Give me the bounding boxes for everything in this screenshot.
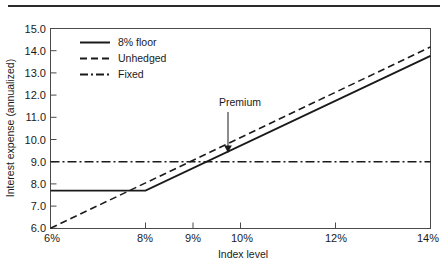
x-tick-label: 14% [417, 232, 439, 244]
x-axis-ticks [51, 223, 431, 229]
x-axis-title: Index level [218, 248, 268, 260]
y-tick-label: 11.0 [25, 111, 46, 123]
x-tick-label: 9% [185, 232, 201, 244]
annotation-label-premium: Premium [219, 96, 261, 108]
y-axis-title: Interest expense (annualized) [4, 59, 16, 197]
x-axis-tick-labels: 6% 8% 9% 10% 12% 14% [44, 232, 439, 244]
y-axis-ticks [51, 29, 57, 229]
y-tick-label: 13.0 [25, 67, 46, 79]
x-tick-label: 10% [231, 232, 253, 244]
x-tick-label: 6% [44, 232, 60, 244]
y-tick-label: 14.0 [25, 45, 46, 57]
figure-container: 15.0 14.0 13.0 12.0 11.0 10.0 9.0 8.0 7.… [0, 0, 448, 266]
line-chart: 15.0 14.0 13.0 12.0 11.0 10.0 9.0 8.0 7.… [0, 0, 448, 266]
y-axis-tick-labels: 15.0 14.0 13.0 12.0 11.0 10.0 9.0 8.0 7.… [25, 23, 46, 235]
y-tick-label: 10.0 [25, 134, 46, 146]
x-tick-label: 12% [325, 232, 347, 244]
y-tick-label: 8.0 [31, 178, 46, 190]
x-tick-label: 8% [137, 232, 153, 244]
y-tick-label: 7.0 [31, 200, 46, 212]
chart-legend: 8% floor Unhedged Fixed [80, 36, 167, 80]
y-tick-label: 15.0 [25, 23, 46, 35]
series-line-8pct-floor [51, 56, 431, 191]
y-tick-label: 12.0 [25, 89, 46, 101]
legend-label-fixed: Fixed [118, 68, 144, 80]
y-tick-label: 9.0 [31, 156, 46, 168]
legend-label-8pct-floor: 8% floor [118, 36, 157, 48]
legend-label-unhedged: Unhedged [118, 52, 167, 64]
